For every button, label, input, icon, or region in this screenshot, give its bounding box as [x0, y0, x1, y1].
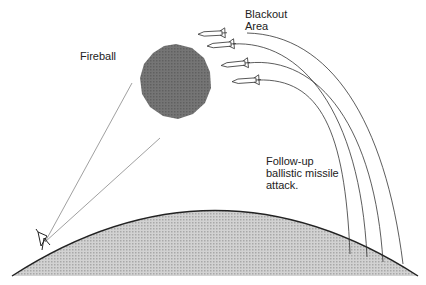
sightline-left	[45, 83, 132, 242]
follow-up-attack-label: Follow-up ballistic missile attack.	[266, 155, 339, 191]
diagram-canvas	[0, 0, 426, 285]
blackout-area-label: Blackout Area	[245, 8, 287, 32]
missile-icon-3	[221, 58, 251, 71]
fireball-label: Fireball	[80, 50, 116, 62]
missile-icon-1	[198, 28, 227, 40]
missile-icon-4	[232, 75, 262, 87]
missile-icon-2	[207, 39, 237, 51]
fireball-icon	[140, 44, 211, 119]
